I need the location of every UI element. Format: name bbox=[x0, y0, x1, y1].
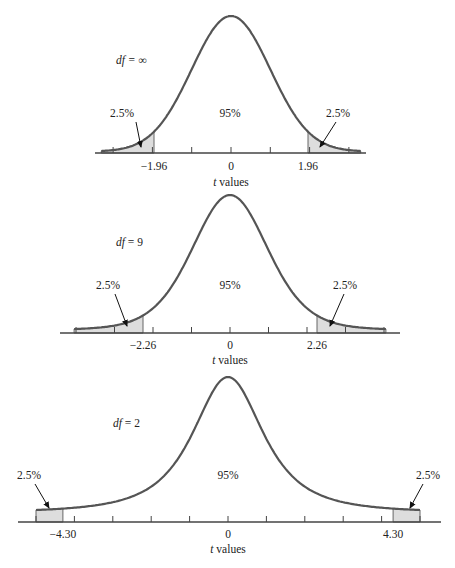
axis-ticks bbox=[36, 516, 420, 522]
panel-df-2: df = 2 95% 2.5% 2.5% −4.30 0 4.30 t valu… bbox=[17, 377, 441, 555]
t-distribution-figure: df = ∞ 95% 2.5% 2.5% −1.96 0 1.96 t valu… bbox=[0, 0, 455, 568]
panel-df-9: df = 9 95% 2.5% 2.5% −2.26 0 2.26 t valu… bbox=[60, 195, 400, 366]
right-tail-arrow-icon bbox=[320, 122, 336, 147]
left-tail-arrow-icon bbox=[35, 484, 49, 508]
x-axis-label: t values bbox=[212, 354, 248, 366]
right-tail-shaded-area bbox=[317, 316, 386, 334]
right-tail-label: 2.5% bbox=[333, 279, 357, 291]
x-axis-label: t values bbox=[213, 176, 249, 188]
tick-label-zero: 0 bbox=[225, 528, 231, 540]
center-area-label: 95% bbox=[219, 107, 241, 119]
left-tail-label: 2.5% bbox=[17, 469, 41, 481]
density-curve bbox=[101, 16, 360, 151]
tick-label-positive-critical: 2.26 bbox=[307, 339, 327, 351]
df-label: df = 2 bbox=[113, 417, 140, 430]
tick-label-negative-critical: −2.26 bbox=[130, 339, 157, 351]
df-label: df = 9 bbox=[116, 236, 143, 249]
tick-label-negative-critical: −1.96 bbox=[141, 160, 168, 172]
df-label: df = ∞ bbox=[116, 54, 147, 67]
left-tail-arrow-icon bbox=[115, 294, 127, 326]
panel-df-infinity: df = ∞ 95% 2.5% 2.5% −1.96 0 1.96 t valu… bbox=[95, 16, 366, 188]
density-curve bbox=[36, 377, 420, 510]
right-tail-label: 2.5% bbox=[416, 469, 440, 481]
center-area-label: 95% bbox=[219, 279, 241, 291]
tick-label-zero: 0 bbox=[228, 160, 234, 172]
tick-label-positive-critical: 4.30 bbox=[383, 528, 403, 540]
left-tail-label: 2.5% bbox=[96, 279, 120, 291]
right-tail-arrow-icon bbox=[330, 294, 344, 326]
tick-label-negative-critical: −4.30 bbox=[50, 528, 77, 540]
left-tail-shaded-area bbox=[74, 316, 143, 334]
x-axis-label: t values bbox=[210, 543, 246, 555]
right-tail-label: 2.5% bbox=[326, 107, 350, 119]
tick-label-positive-critical: 1.96 bbox=[298, 160, 318, 172]
tick-label-zero: 0 bbox=[227, 339, 233, 351]
right-tail-arrow-icon bbox=[410, 484, 423, 508]
center-area-label: 95% bbox=[217, 469, 239, 481]
left-tail-label: 2.5% bbox=[110, 107, 134, 119]
